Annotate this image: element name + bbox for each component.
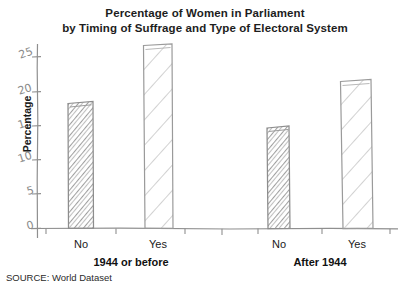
- x-group-label-1944-or-before: 1944 or before: [46, 256, 216, 268]
- y-axis-title: Percentage: [21, 84, 33, 164]
- bar-no-after-1944: [267, 126, 290, 229]
- source-note: SOURCE: World Dataset: [6, 272, 112, 283]
- chart-title: Percentage of Women in Parliament by Tim…: [0, 6, 410, 36]
- bar-yes-after-1944: [341, 80, 374, 229]
- x-tick-label-yes-2: Yes: [327, 238, 387, 250]
- x-tick-label-no-1: No: [51, 238, 111, 250]
- x-tick-label-no-2: No: [249, 238, 309, 250]
- x-group-label-after-1944: After 1944: [235, 256, 405, 268]
- bar-no-1944-or-before: [68, 102, 94, 229]
- chart-title-line-2: by Timing of Suffrage and Type of Electo…: [0, 21, 410, 36]
- x-tick-label-yes-1: Yes: [128, 238, 188, 250]
- chart-container: Percentage of Women in Parliament by Tim…: [0, 0, 410, 292]
- chart-title-line-1: Percentage of Women in Parliament: [105, 7, 304, 19]
- bar-yes-1944-or-before: [144, 44, 174, 228]
- y-axis-line: [37, 44, 38, 238]
